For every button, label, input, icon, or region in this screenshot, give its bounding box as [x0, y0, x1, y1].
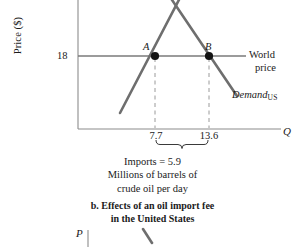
oil-import-fee-figure: Price ($) 18 A B World price DemandUS Q …	[0, 0, 305, 247]
next-panel-y-axis-label: P	[76, 228, 83, 240]
next-panel-curve-segment	[143, 229, 152, 243]
next-panel-partial	[0, 0, 305, 247]
